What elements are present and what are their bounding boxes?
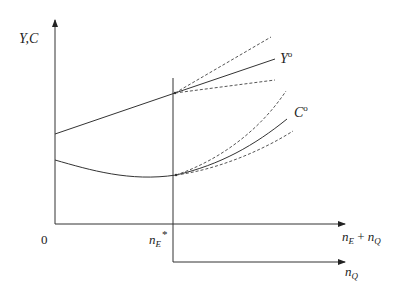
c-curve-upper-dashed [176, 91, 286, 175]
origin-label: 0 [41, 232, 48, 247]
y-curve-lower-dashed [175, 80, 275, 93]
x-axis-lower-label: nQ [345, 264, 359, 281]
y-curve-left [55, 93, 175, 134]
x-axis-upper-label: nE + nQ [342, 229, 381, 246]
c-point [175, 174, 177, 176]
y-point [174, 92, 176, 94]
y-curve-label: Yo [280, 49, 293, 66]
c-curve-label: Co [294, 103, 308, 120]
y-axis-label: Y,C [19, 31, 39, 46]
c-curve-left [55, 160, 176, 177]
threshold-label: nE* [149, 228, 168, 249]
diagram-canvas: Y,C 0 Yo Co nE* nE + nQ nQ [0, 0, 401, 292]
c-curve-lower-dashed [176, 131, 293, 175]
